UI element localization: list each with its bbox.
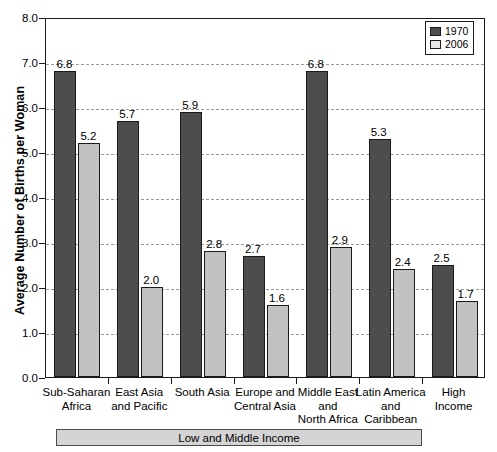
y-tick-label: 4.0 bbox=[0, 192, 38, 204]
x-axis-separator bbox=[359, 378, 360, 384]
x-axis-label-line: and Pacific bbox=[103, 400, 176, 414]
x-axis-label-6: HighIncome bbox=[417, 386, 490, 413]
bar-value-label: 1.7 bbox=[458, 288, 474, 300]
bar-value-label: 6.8 bbox=[308, 58, 324, 70]
bar-2006-0[interactable] bbox=[78, 143, 100, 377]
bar-value-label: 2.9 bbox=[332, 234, 348, 246]
y-tick-label: 5.0 bbox=[0, 147, 38, 159]
bar-2006-2[interactable] bbox=[204, 251, 226, 377]
bar-2006-1[interactable] bbox=[141, 287, 163, 377]
y-tick-label: 6.0 bbox=[0, 102, 38, 114]
bar-2006-4[interactable] bbox=[330, 247, 352, 378]
legend-label-1970: 1970 bbox=[445, 26, 468, 37]
bar-value-label: 5.7 bbox=[119, 108, 135, 120]
legend-swatch-1970-icon bbox=[430, 27, 441, 36]
bar-value-label: 2.8 bbox=[206, 238, 222, 250]
bar-value-label: 2.0 bbox=[143, 274, 159, 286]
legend-item-2006: 2006 bbox=[430, 38, 468, 51]
bar-1970-0[interactable] bbox=[54, 71, 76, 377]
y-tick-label: 7.0 bbox=[0, 57, 38, 69]
bar-1970-6[interactable] bbox=[432, 265, 454, 378]
low-middle-income-bracket: Low and Middle Income bbox=[56, 429, 422, 446]
bar-1970-4[interactable] bbox=[306, 71, 328, 377]
bar-value-label: 5.3 bbox=[371, 126, 387, 138]
bar-value-label: 2.5 bbox=[434, 252, 450, 264]
plot-area bbox=[45, 18, 485, 378]
bar-1970-3[interactable] bbox=[243, 256, 265, 378]
y-tick-label: 2.0 bbox=[0, 282, 38, 294]
grid-line bbox=[46, 199, 484, 200]
legend-label-2006: 2006 bbox=[445, 39, 468, 50]
x-axis-label-line: High bbox=[417, 386, 490, 400]
bar-value-label: 1.6 bbox=[269, 292, 285, 304]
bar-value-label: 5.2 bbox=[80, 130, 96, 142]
x-axis-label-line: Income bbox=[417, 400, 490, 414]
bar-1970-5[interactable] bbox=[369, 139, 391, 378]
grid-line bbox=[46, 109, 484, 110]
x-axis-separator bbox=[296, 378, 297, 384]
grid-line bbox=[46, 154, 484, 155]
bar-value-label: 2.7 bbox=[245, 243, 261, 255]
bar-2006-5[interactable] bbox=[393, 269, 415, 377]
bar-value-label: 2.4 bbox=[395, 256, 411, 268]
y-tick-label: 3.0 bbox=[0, 237, 38, 249]
x-axis-label-line: Caribbean bbox=[354, 413, 427, 427]
grid-line bbox=[46, 244, 484, 245]
bracket-label: Low and Middle Income bbox=[57, 430, 421, 445]
y-tick-label: 8.0 bbox=[0, 12, 38, 24]
grid-line bbox=[46, 64, 484, 65]
bar-2006-6[interactable] bbox=[456, 301, 478, 378]
grid-line bbox=[46, 289, 484, 290]
y-tick-mark bbox=[39, 378, 45, 379]
bar-value-label: 5.9 bbox=[182, 99, 198, 111]
y-tick-label: 0.0 bbox=[0, 372, 38, 384]
bar-2006-3[interactable] bbox=[267, 305, 289, 377]
bar-value-label: 6.8 bbox=[56, 58, 72, 70]
x-axis-separator bbox=[171, 378, 172, 384]
grid-line bbox=[46, 334, 484, 335]
legend-swatch-2006-icon bbox=[430, 40, 441, 49]
x-axis-separator bbox=[422, 378, 423, 384]
legend-item-1970: 1970 bbox=[430, 25, 468, 38]
y-tick-label: 1.0 bbox=[0, 327, 38, 339]
chart-legend: 1970 2006 bbox=[425, 21, 474, 55]
fertility-bar-chart: Average Number of Births per Woman 0.01.… bbox=[0, 0, 497, 452]
bar-1970-2[interactable] bbox=[180, 112, 202, 378]
x-axis-separator bbox=[108, 378, 109, 384]
x-axis-separator bbox=[234, 378, 235, 384]
bar-1970-1[interactable] bbox=[117, 121, 139, 378]
